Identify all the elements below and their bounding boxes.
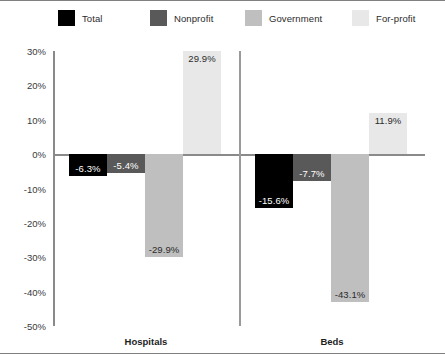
bar-value-label: 11.9% bbox=[369, 115, 407, 126]
bar-value-label: -5.4% bbox=[107, 160, 145, 171]
bar-value-label: -15.6% bbox=[255, 195, 293, 206]
bar-beds-total[interactable]: -15.6% bbox=[255, 154, 293, 208]
x-axis-category-label-hospitals: Hospitals bbox=[125, 336, 168, 347]
bar-value-label: 29.9% bbox=[183, 53, 221, 64]
chart-legend: TotalNonprofitGovernmentFor-profit bbox=[0, 9, 445, 29]
bar-value-label: -7.7% bbox=[293, 168, 331, 179]
bar-beds-government[interactable]: -43.1% bbox=[331, 154, 369, 302]
legend-item-nonprofit[interactable]: Nonprofit bbox=[150, 9, 213, 27]
bar-hospitals-total[interactable]: -6.3% bbox=[69, 154, 107, 176]
y-axis-tick-label: 0% bbox=[32, 149, 46, 160]
legend-swatch-icon bbox=[150, 10, 167, 26]
chart-figure: TotalNonprofitGovernmentFor-profit 30%20… bbox=[0, 0, 445, 354]
y-axis-tick-label: 20% bbox=[27, 80, 46, 91]
y-axis-tick-label: -10% bbox=[24, 183, 46, 194]
legend-item-total[interactable]: Total bbox=[58, 9, 103, 27]
bar-hospitals-nonprofit[interactable]: -5.4% bbox=[107, 154, 145, 173]
y-axis-tick-label: -40% bbox=[24, 286, 46, 297]
legend-item-label: Government bbox=[269, 13, 322, 24]
bar-value-label: -6.3% bbox=[69, 163, 107, 174]
bar-hospitals-for-profit[interactable]: 29.9% bbox=[183, 51, 221, 154]
bar-beds-nonprofit[interactable]: -7.7% bbox=[293, 154, 331, 180]
legend-item-label: For-profit bbox=[376, 13, 416, 24]
legend-item-label: Total bbox=[82, 13, 103, 24]
bar-beds-for-profit[interactable]: 11.9% bbox=[369, 113, 407, 154]
y-axis-tick-label: -30% bbox=[24, 252, 46, 263]
y-axis-line bbox=[53, 51, 55, 326]
legend-swatch-icon bbox=[352, 10, 369, 26]
legend-swatch-icon bbox=[58, 10, 75, 26]
bar-value-label: -43.1% bbox=[331, 289, 369, 300]
group-separator-line bbox=[239, 51, 241, 326]
bar-value-label: -29.9% bbox=[145, 244, 183, 255]
plot-area: 30%20%10%0%-10%-20%-30%-40%-50% -6.3%-5.… bbox=[53, 51, 425, 326]
legend-item-government[interactable]: Government bbox=[245, 9, 322, 27]
y-axis-tick-label: 30% bbox=[27, 46, 46, 57]
y-axis-tick-label: -20% bbox=[24, 217, 46, 228]
legend-item-label: Nonprofit bbox=[174, 13, 213, 24]
legend-swatch-icon bbox=[245, 10, 262, 26]
legend-item-for-profit[interactable]: For-profit bbox=[352, 9, 416, 27]
y-axis-tick-label: -50% bbox=[24, 321, 46, 332]
x-axis-category-label-beds: Beds bbox=[320, 336, 343, 347]
y-axis-tick-label: 10% bbox=[27, 114, 46, 125]
bar-hospitals-government[interactable]: -29.9% bbox=[145, 154, 183, 257]
